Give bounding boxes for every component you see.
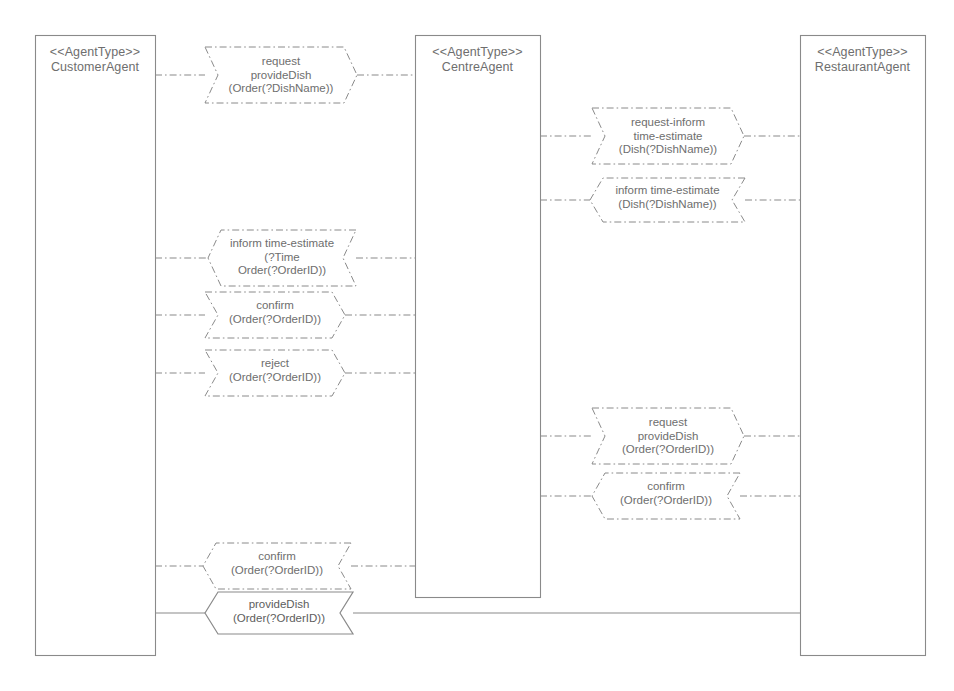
message-m1[interactable] xyxy=(155,47,415,103)
message-chevron-left[interactable] xyxy=(205,592,353,634)
message-chevron-right[interactable] xyxy=(205,47,357,103)
message-m6[interactable] xyxy=(155,350,415,396)
message-chevron-right[interactable] xyxy=(592,408,744,464)
message-chevron-left[interactable] xyxy=(592,473,740,519)
agent-lifeline-customer[interactable] xyxy=(36,36,156,656)
message-m2[interactable] xyxy=(540,108,800,164)
diagram-canvas: <<AgentType>>CustomerAgent<<AgentType>>C… xyxy=(0,0,954,691)
agent-lifeline-centre[interactable] xyxy=(416,36,541,598)
message-m3[interactable] xyxy=(540,178,800,222)
message-chevron-right[interactable] xyxy=(205,292,345,338)
message-m7[interactable] xyxy=(540,408,800,464)
message-m4[interactable] xyxy=(155,230,415,286)
agent-lifeline-restaurant[interactable] xyxy=(801,36,926,656)
message-chevron-left[interactable] xyxy=(208,230,356,286)
message-m9[interactable] xyxy=(155,543,415,589)
message-m8[interactable] xyxy=(540,473,800,519)
message-m5[interactable] xyxy=(155,292,415,338)
message-chevron-left[interactable] xyxy=(203,543,351,589)
message-chevron-right[interactable] xyxy=(205,350,345,396)
message-m10[interactable] xyxy=(155,592,800,634)
message-chevron-right[interactable] xyxy=(592,108,744,164)
sequence-diagram-svg xyxy=(0,0,954,691)
message-chevron-left[interactable] xyxy=(590,178,745,222)
